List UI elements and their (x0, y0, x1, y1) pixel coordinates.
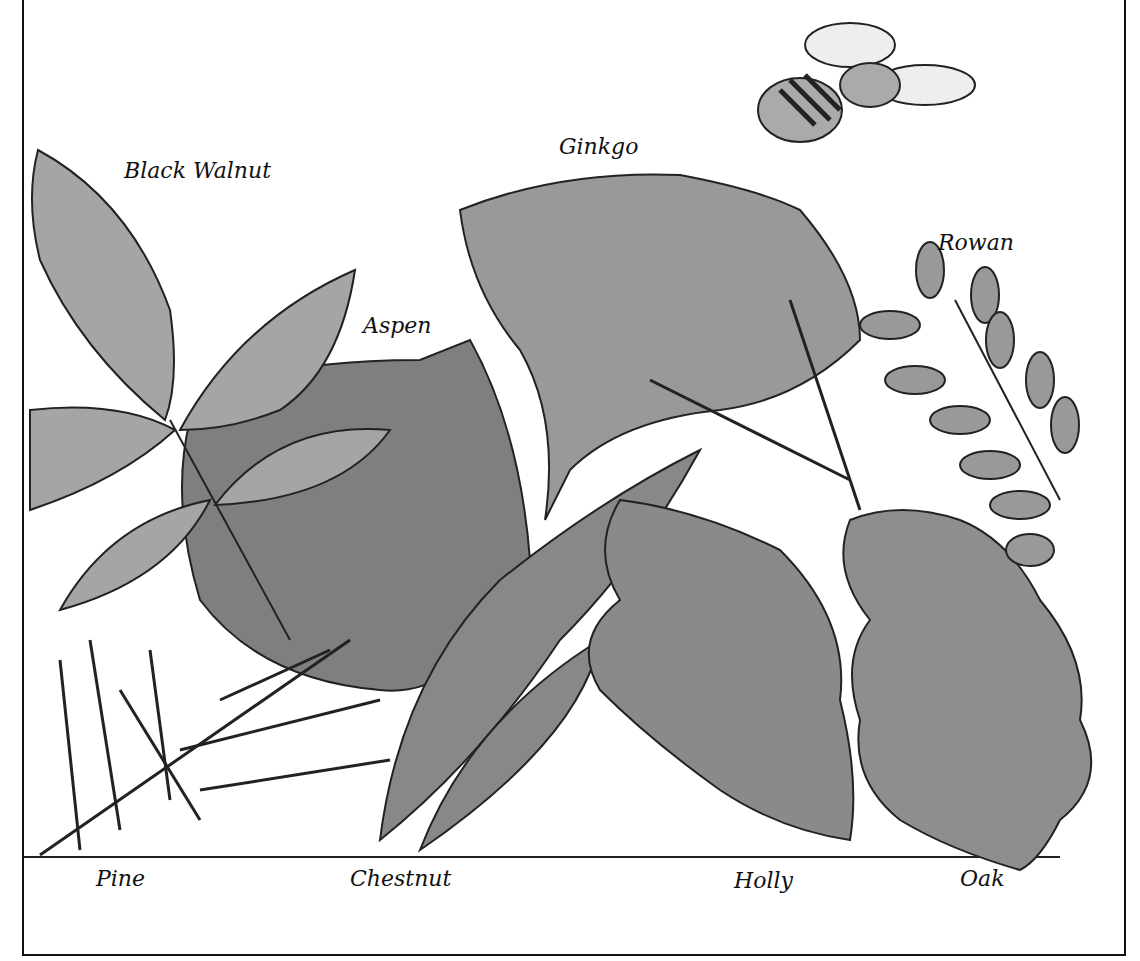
label-oak: Oak (960, 866, 1004, 891)
label-holly: Holly (734, 868, 793, 893)
black-walnut-leaflet (30, 408, 175, 511)
ginkgo-leaf (460, 174, 860, 520)
black-walnut-leaflet (60, 500, 210, 610)
label-chestnut: Chestnut (350, 866, 451, 891)
label-pine: Pine (96, 866, 145, 891)
label-ginkgo: Ginkgo (559, 134, 638, 159)
bee-icon (758, 23, 975, 142)
label-aspen: Aspen (363, 313, 431, 338)
label-black-walnut: Black Walnut (124, 158, 271, 183)
holly-leaf (589, 500, 854, 840)
black-walnut-leaflet (32, 150, 174, 420)
label-rowan: Rowan (938, 230, 1014, 255)
oak-leaf (843, 510, 1091, 870)
